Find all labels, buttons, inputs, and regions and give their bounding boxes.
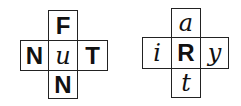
cell-right: y [200,37,229,69]
cell-center: u [48,40,78,71]
cell-top: F [48,10,78,41]
cell-right: T [77,40,108,71]
cell-bottom: t [171,68,201,98]
cell-center: R [171,37,201,69]
cell-bottom: N [48,70,78,99]
cell-left: N [20,40,49,71]
cell-top: a [171,8,201,38]
cell-left: i [142,37,172,69]
